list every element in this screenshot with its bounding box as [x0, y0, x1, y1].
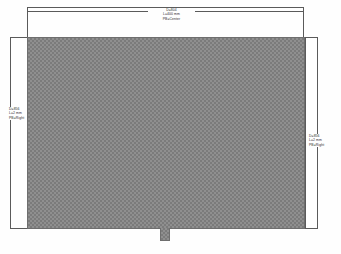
left-dimension-position: PB=Right — [9, 116, 24, 120]
left-dimension-label: D=856 L=2 mm PB=Right — [8, 107, 25, 120]
top-dimension-position: PB=Center — [149, 17, 194, 21]
bottom-notch-tab — [160, 228, 170, 241]
hatched-panel — [27, 37, 305, 229]
top-dimension-rule-right — [193, 11, 304, 12]
right-dimension-label: D=856 L=2 mm PB=Right — [308, 134, 325, 147]
drawing-canvas: D=804 L=400 mm PB=Center D=856 L=2 mm PB… — [0, 0, 341, 254]
right-dimension-position: PB=Right — [309, 143, 324, 147]
top-dimension-label: D=804 L=400 mm PB=Center — [148, 8, 195, 21]
top-dimension-rule-left — [27, 11, 148, 12]
